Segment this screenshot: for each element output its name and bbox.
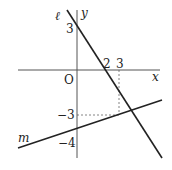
x-tick-2: 2	[103, 57, 111, 71]
x-axis-label: x	[152, 70, 159, 84]
y-tick-neg3: −3	[57, 108, 75, 122]
y-tick-neg4: −4	[58, 136, 76, 150]
line-m-label: m	[18, 131, 29, 145]
origin-label: O	[64, 73, 74, 87]
coordinate-plane: ℓ y 3 2 3 O x −3 m −4	[0, 0, 172, 170]
y-tick-3: 3	[66, 22, 74, 36]
line-l	[67, 10, 162, 158]
line-l-label: ℓ	[55, 9, 60, 23]
x-tick-3: 3	[116, 57, 124, 71]
y-axis-label: y	[80, 6, 88, 20]
